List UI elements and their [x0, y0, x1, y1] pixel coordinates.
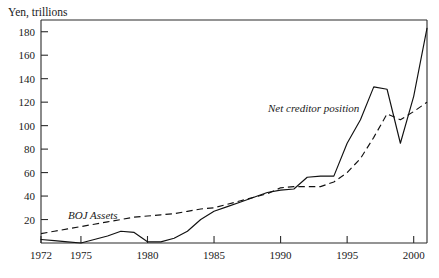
y-tick-label: 40	[24, 190, 36, 202]
y-tick-label: 180	[19, 26, 36, 38]
x-tick-label: 1975	[70, 249, 93, 261]
y-tick-label: 20	[24, 214, 36, 226]
annotation-boj-assets: BOJ Assets	[68, 209, 118, 221]
x-tick-marks	[41, 236, 414, 243]
x-tick-label: 2000	[403, 249, 426, 261]
y-tick-label: 160	[19, 49, 36, 61]
x-tick-label: 1972	[30, 249, 52, 261]
y-tick-label: 60	[24, 167, 36, 179]
y-tick-marks	[41, 32, 48, 220]
chart-figure: Yen, trillions 20406080100120140160180 1…	[0, 0, 439, 278]
y-tick-label: 80	[24, 143, 36, 155]
x-tick-label: 1980	[136, 249, 159, 261]
x-tick-label: 1995	[336, 249, 359, 261]
line-chart: Yen, trillions 20406080100120140160180 1…	[0, 0, 439, 278]
y-axis-title: Yen, trillions	[8, 6, 68, 19]
y-tick-labels: 20406080100120140160180	[19, 26, 36, 226]
y-tick-label: 140	[19, 73, 36, 85]
annotation-net-creditor-position: Net creditor position	[267, 102, 360, 114]
y-tick-label: 100	[19, 120, 36, 132]
y-tick-label: 120	[19, 96, 36, 108]
x-tick-label: 1990	[270, 249, 293, 261]
x-tick-label: 1985	[203, 249, 226, 261]
x-tick-labels: 1972197519801985199019952000	[30, 249, 425, 261]
